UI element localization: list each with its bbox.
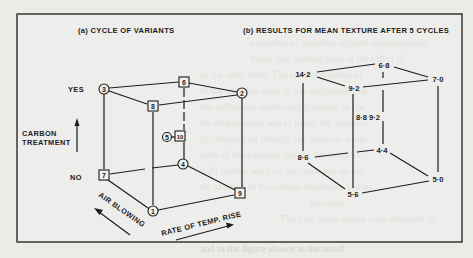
node-8: 8 [148,101,158,111]
value-8-6: 8·6 [298,153,309,162]
panel-a-title: (a) CYCLE OF VARIANTS [78,26,174,35]
value-centre-pair: 8·8 9·2 [356,113,380,122]
node-1-label: 1 [151,208,155,215]
node-6: 6 [179,77,189,87]
carbon-label: CARBON [22,129,57,138]
value-4-4: 4·4 [377,146,389,155]
node-8-label: 8 [151,103,155,110]
value-7-0: 7·0 [433,75,444,84]
figure-border [17,14,462,242]
node-6-label: 6 [182,79,186,86]
panel-b-title: (b) RESULTS FOR MEAN TEXTURE AFTER 5 CYC… [243,26,449,35]
no-label: NO [70,173,82,182]
value-5-6: 5·6 [348,190,359,199]
node-2-label: 2 [240,90,244,97]
node-3: 3 [99,84,109,94]
node-7-label: 7 [102,172,106,179]
node-7: 7 [99,170,109,180]
node-1: 1 [148,206,158,216]
node-10: 10 [175,131,185,141]
node-9: 9 [235,188,245,198]
value-9-2-top: 9·2 [349,84,360,93]
node-5-label: 5 [165,134,169,141]
value-14-2: 14·2 [295,70,310,79]
treatment-label: TREATMENT [22,138,71,147]
node-5: 5 [163,133,172,142]
node-2: 2 [237,88,247,98]
value-6-8: 6·8 [379,61,390,70]
bleed-line: and in the figure shown as the result [200,243,345,254]
figure-canvas: a number of variables applied independen… [0,0,473,258]
figure-svg: a number of variables applied independen… [0,0,473,258]
node-3-label: 3 [102,86,106,93]
node-4: 4 [178,159,188,169]
value-5-0: 5·0 [433,175,444,184]
node-10-label: 10 [177,134,184,140]
yes-label: YES [68,85,84,94]
node-4-label: 4 [181,161,185,168]
node-9-label: 9 [238,190,242,197]
